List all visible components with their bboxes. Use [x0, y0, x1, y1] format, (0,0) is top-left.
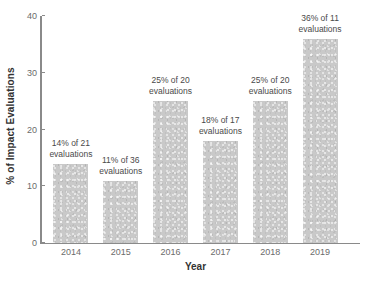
x-axis-tick-label: 2014: [46, 247, 96, 257]
x-axis-tick-label: 2015: [96, 247, 146, 257]
y-axis-tick-mark: [42, 15, 45, 16]
bar: [103, 181, 138, 243]
y-axis-tick-label: 10: [27, 180, 37, 192]
bar-value-label: 25% of 20 evaluations: [231, 75, 309, 97]
x-axis-tick-label: 2019: [295, 247, 345, 257]
x-axis-tick-label: 2017: [196, 247, 246, 257]
y-axis-tick: 40: [0, 10, 46, 22]
y-axis-tick: 20: [0, 124, 46, 136]
bar-group: 18% of 17 evaluations: [203, 16, 238, 243]
y-axis-tick-label: 0: [32, 237, 37, 249]
bar-value-label: 36% of 11 evaluations: [281, 13, 359, 35]
x-axis-title: Year: [46, 261, 345, 272]
bar: [203, 141, 238, 243]
bar-group: 36% of 11 evaluations: [303, 16, 338, 243]
y-axis-tick-mark: [42, 129, 45, 130]
x-axis-line: [40, 243, 360, 244]
x-axis-tick-label: 2016: [146, 247, 196, 257]
bar-chart: % of Impact Evaluations 010203040 14% of…: [0, 0, 372, 286]
bar-value-label: 25% of 20 evaluations: [132, 75, 210, 97]
y-axis-tick: 30: [0, 67, 46, 79]
bar: [253, 101, 288, 243]
y-axis-tick-mark: [42, 72, 45, 73]
bar-group: 25% of 20 evaluations: [253, 16, 288, 243]
y-axis-tick-mark: [42, 185, 45, 186]
y-axis-tick-label: 30: [27, 67, 37, 79]
y-axis-tick: 10: [0, 180, 46, 192]
bar-value-label: 11% of 36 evaluations: [82, 155, 160, 177]
y-axis-tick-label: 20: [27, 124, 37, 136]
bar-group: 11% of 36 evaluations: [103, 16, 138, 243]
plot-area: 14% of 21 evaluations11% of 36 evaluatio…: [46, 16, 345, 243]
y-axis-tick-label: 40: [27, 10, 37, 22]
x-axis-tick-label: 2018: [245, 247, 295, 257]
bar-group: 14% of 21 evaluations: [53, 16, 88, 243]
y-axis-tick: 0: [0, 237, 46, 249]
bar-value-label: 18% of 17 evaluations: [181, 115, 259, 137]
y-axis-tick-mark: [42, 242, 45, 243]
bar: [303, 39, 338, 243]
